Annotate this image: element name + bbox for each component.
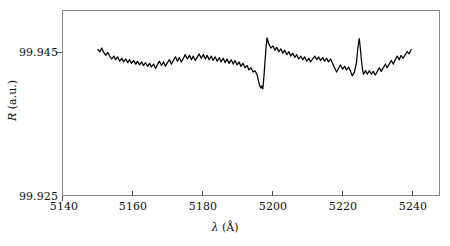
x-tick-label-5180: 5180 [189,200,217,213]
x-tick-label-5140: 5140 [50,200,78,213]
x-tick-mark-5220 [342,191,343,196]
x-axis-title: λ (Å) [0,221,450,234]
spectrum-figure: 99.945 99.925 5140 5160 5180 5200 5220 5… [0,0,450,246]
x-tick-label-5200: 5200 [259,200,287,213]
x-tick-label-5220: 5220 [329,200,357,213]
spectrum-trace [63,11,439,195]
x-axis-title-unit: (Å) [222,221,239,234]
x-tick-mark-5200 [272,191,273,196]
y-axis-title-unit: (a.u.) [6,80,19,109]
x-tick-mark-5180 [202,191,203,196]
x-tick-label-5160: 5160 [119,200,147,213]
y-tick-label-upper: 99.945 [19,46,58,59]
x-tick-label-5240: 5240 [399,200,427,213]
x-tick-mark-5240 [412,191,413,196]
y-axis-title: R (a.u.) [6,68,19,134]
plot-frame [62,10,440,196]
y-axis-title-symbol: R [6,113,19,121]
x-tick-mark-5160 [132,191,133,196]
